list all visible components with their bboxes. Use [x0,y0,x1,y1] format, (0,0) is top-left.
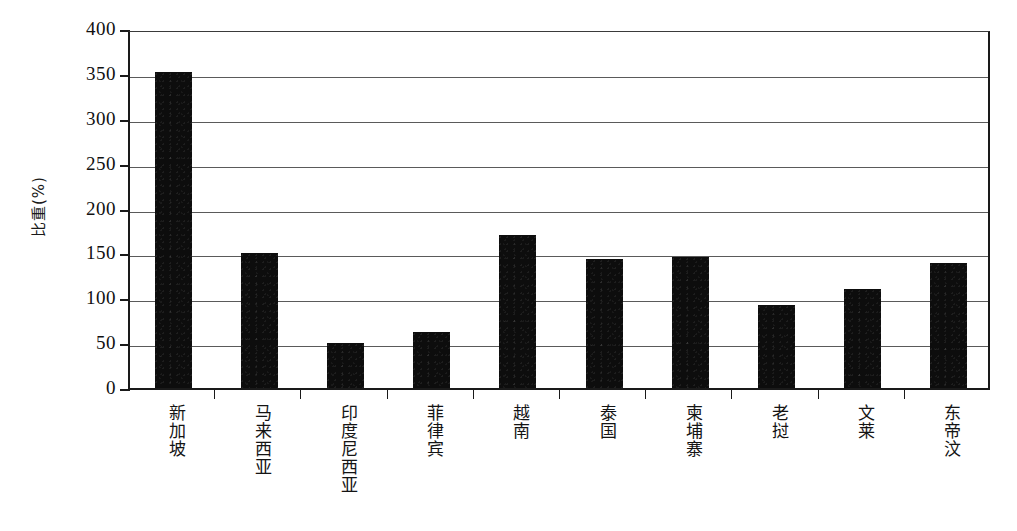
bar [241,253,278,388]
gridline [130,167,988,168]
y-axis-tick-label: 0 [38,377,116,399]
x-axis-tick-label: 菲律宾 [417,404,443,458]
x-axis-tick-label: 柬埔寨 [675,404,701,458]
x-axis-tick-mark [559,390,560,399]
y-axis-tick-label: 150 [38,242,116,264]
y-axis-tick-label: 50 [38,332,116,354]
x-axis-tick-mark [904,390,905,399]
x-axis-tick-mark [731,390,732,399]
x-axis-tick-label: 马来西亚 [244,404,270,476]
x-axis-tick-label: 老挝 [762,404,788,440]
bar [672,257,709,388]
x-axis-tick-label: 新加坡 [158,404,184,458]
y-axis-tick-label: 350 [38,63,116,85]
x-axis-tick-label: 越南 [503,404,529,440]
y-axis-tick-label: 300 [38,108,116,130]
x-axis-tick-mark [645,390,646,399]
y-axis-tick-label: 200 [38,198,116,220]
bar [327,343,364,388]
x-axis-tick-label: 文莱 [848,404,874,440]
x-axis-tick-label: 印度尼西亚 [331,404,357,494]
gridline [130,212,988,213]
y-axis-tick-label: 250 [38,153,116,175]
plot-area [128,31,990,390]
bar [499,235,536,388]
y-axis-tick-label: 100 [38,287,116,309]
bar [844,289,881,388]
chart-figure: 比重(%) 400350300250200150100500 新加坡马来西亚印度… [0,0,1017,531]
bar [930,263,967,388]
x-axis-tick-mark [473,390,474,399]
x-axis-tick-label: 泰国 [589,404,615,440]
y-axis-tick-label: 400 [38,18,116,40]
gridline [130,77,988,78]
x-axis-tick-mark [300,390,301,399]
bar [413,332,450,388]
bar [758,305,795,388]
x-axis-tick-label: 东帝汶 [934,404,960,458]
bar [586,259,623,388]
x-axis-tick-mark [818,390,819,399]
gridline [130,122,988,123]
bar [155,72,192,388]
x-axis-tick-mark [214,390,215,399]
x-axis-tick-mark [387,390,388,399]
